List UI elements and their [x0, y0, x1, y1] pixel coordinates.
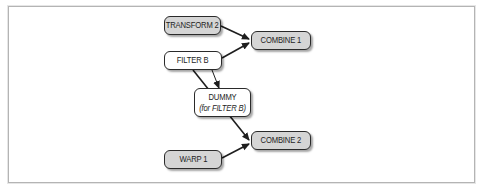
node-combine-1: COMBINE 1	[251, 31, 311, 50]
node-label: COMBINE 2	[261, 135, 302, 146]
node-label: DUMMY	[208, 92, 236, 103]
node-label: TRANSFORM 2	[166, 20, 219, 31]
edge-transform2-combine1	[221, 26, 249, 39]
node-transform-2: TRANSFORM 2	[164, 16, 221, 35]
edge-filterb-dummy	[212, 70, 219, 88]
node-label: COMBINE 1	[261, 35, 302, 46]
edge-warp1-combine2	[222, 144, 249, 158]
node-warp-1: WARP 1	[164, 150, 222, 169]
node-dummy: DUMMY (for FILTER B)	[194, 88, 251, 117]
node-combine-2: COMBINE 2	[251, 131, 311, 150]
node-label: FILTER B	[177, 55, 209, 66]
node-filter-b: FILTER B	[164, 51, 222, 70]
node-sublabel: (for FILTER B)	[199, 103, 246, 114]
edge-filterb-combine1	[222, 43, 249, 58]
node-label: WARP 1	[179, 154, 207, 165]
